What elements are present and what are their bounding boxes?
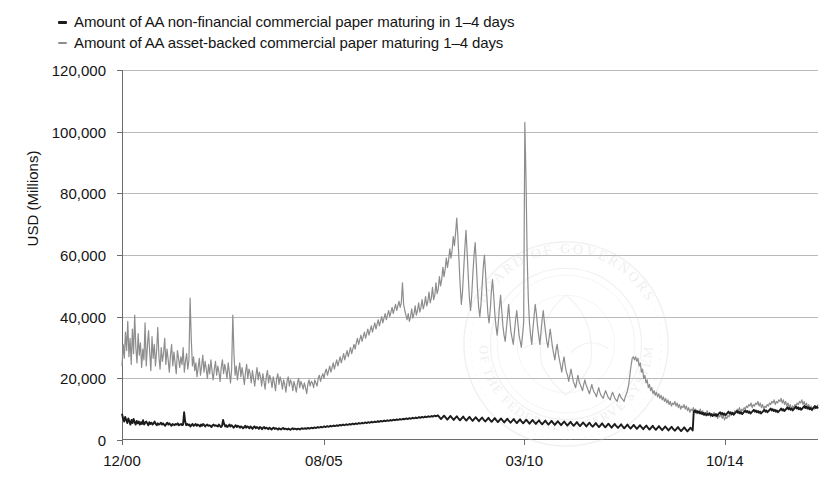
chart-legend: Amount of AA non-financial commercial pa… bbox=[58, 11, 515, 53]
legend-item-non-financial: Amount of AA non-financial commercial pa… bbox=[58, 11, 515, 32]
y-tick-label: 60,000 bbox=[0, 247, 106, 264]
legend-label-non-financial: Amount of AA non-financial commercial pa… bbox=[74, 14, 515, 30]
series-line-non-financial bbox=[122, 406, 818, 431]
series-line-asset-backed bbox=[122, 122, 818, 420]
chart-page: Amount of AA non-financial commercial pa… bbox=[0, 0, 829, 482]
x-tick-label: 10/14 bbox=[706, 452, 744, 469]
y-tick-label: 40,000 bbox=[0, 308, 106, 325]
legend-item-asset-backed: Amount of AA asset-backed commercial pap… bbox=[58, 32, 515, 53]
x-tick-label: 08/05 bbox=[305, 452, 343, 469]
y-tick-label: 120,000 bbox=[0, 62, 106, 79]
y-tick-label: 80,000 bbox=[0, 185, 106, 202]
y-tick-label: 0 bbox=[0, 432, 106, 449]
y-tick-label: 100,000 bbox=[0, 123, 106, 140]
x-tick-label: 12/00 bbox=[103, 452, 141, 469]
series-lines bbox=[122, 70, 818, 440]
dash-marker-gray-icon bbox=[58, 38, 67, 47]
plot-area: 020,00040,00060,00080,000100,000120,000 … bbox=[122, 70, 818, 440]
legend-label-asset-backed: Amount of AA asset-backed commercial pap… bbox=[74, 35, 503, 51]
y-tick-label: 20,000 bbox=[0, 370, 106, 387]
x-tick-label: 03/10 bbox=[506, 452, 544, 469]
dash-marker-dark-icon bbox=[58, 17, 67, 26]
